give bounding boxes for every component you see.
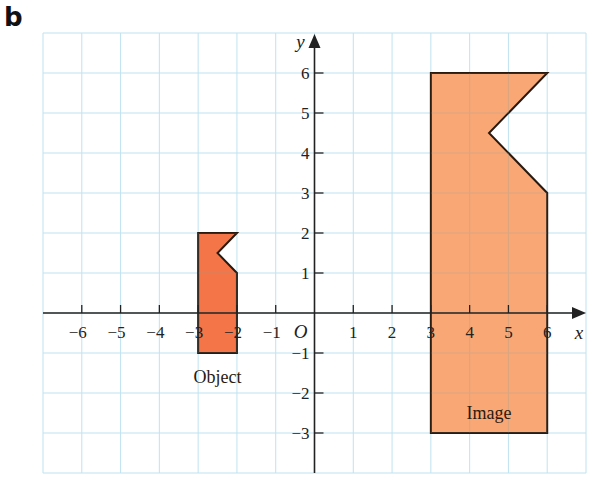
x-tick-label: −3 bbox=[185, 323, 203, 342]
coordinate-grid-chart: −6−5−4−3−2−1123456−3−2−1123456OxyObjectI… bbox=[0, 0, 609, 493]
y-axis-arrow-icon bbox=[309, 34, 321, 48]
x-tick-label: 1 bbox=[349, 323, 358, 342]
x-tick-label: −1 bbox=[263, 323, 281, 342]
x-tick-label: 4 bbox=[465, 323, 474, 342]
x-tick-label: 5 bbox=[504, 323, 513, 342]
origin-label: O bbox=[294, 321, 308, 342]
y-tick-label: −2 bbox=[291, 384, 309, 403]
x-tick-label: −2 bbox=[224, 323, 242, 342]
x-axis-arrow-icon bbox=[572, 307, 586, 319]
y-tick-label: 2 bbox=[301, 224, 310, 243]
shape-label-object: Object bbox=[194, 367, 242, 387]
x-tick-label: 3 bbox=[427, 323, 436, 342]
y-tick-label: −1 bbox=[291, 344, 309, 363]
x-tick-label: 6 bbox=[543, 323, 552, 342]
y-tick-label: 4 bbox=[301, 144, 310, 163]
x-tick-label: −5 bbox=[108, 323, 126, 342]
y-tick-label: 6 bbox=[301, 64, 310, 83]
y-axis-label: y bbox=[294, 31, 305, 52]
y-tick-label: 3 bbox=[301, 184, 310, 203]
y-tick-label: 1 bbox=[301, 264, 310, 283]
x-axis-label: x bbox=[574, 322, 584, 343]
y-tick-label: 5 bbox=[301, 104, 310, 123]
x-tick-label: 2 bbox=[388, 323, 397, 342]
shape-image bbox=[431, 73, 547, 433]
x-tick-label: −6 bbox=[69, 323, 87, 342]
y-tick-label: −3 bbox=[291, 424, 309, 443]
shape-label-image: Image bbox=[467, 403, 512, 423]
x-tick-label: −4 bbox=[146, 323, 165, 342]
